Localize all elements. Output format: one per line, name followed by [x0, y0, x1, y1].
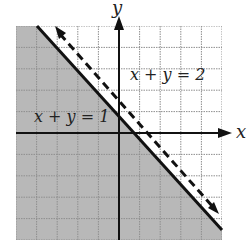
y-axis-arrow-icon: [114, 16, 124, 30]
y-axis-label: y: [111, 0, 123, 18]
x-axis-arrow-icon: [218, 128, 232, 138]
x-axis-label: x: [236, 121, 246, 142]
line1-label: x + y = 1: [34, 107, 109, 126]
inequality-graph: y x x + y = 2 x + y = 1: [0, 0, 251, 251]
line2-label: x + y = 2: [130, 65, 205, 84]
